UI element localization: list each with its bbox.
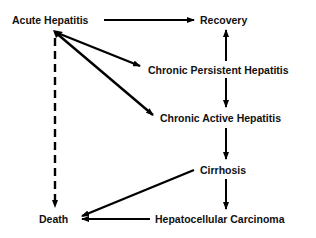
node-chronic-active-hepatitis: Chronic Active Hepatitis bbox=[160, 112, 281, 124]
node-chronic-persistent-hepatitis: Chronic Persistent Hepatitis bbox=[148, 64, 289, 76]
hepatitis-progression-diagram: Acute Hepatitis Recovery Chronic Persist… bbox=[0, 0, 316, 238]
node-hepatocellular-carcinoma: Hepatocellular Carcinoma bbox=[155, 213, 285, 225]
node-acute-hepatitis: Acute Hepatitis bbox=[12, 14, 88, 26]
edge-acute-to-chronic-active bbox=[55, 32, 153, 115]
node-recovery: Recovery bbox=[200, 14, 247, 26]
node-death: Death bbox=[39, 213, 68, 225]
node-cirrhosis: Cirrhosis bbox=[200, 164, 246, 176]
edge-cirrhosis-to-death bbox=[82, 170, 194, 216]
edge-acute-to-chronic-persistent bbox=[55, 32, 140, 66]
